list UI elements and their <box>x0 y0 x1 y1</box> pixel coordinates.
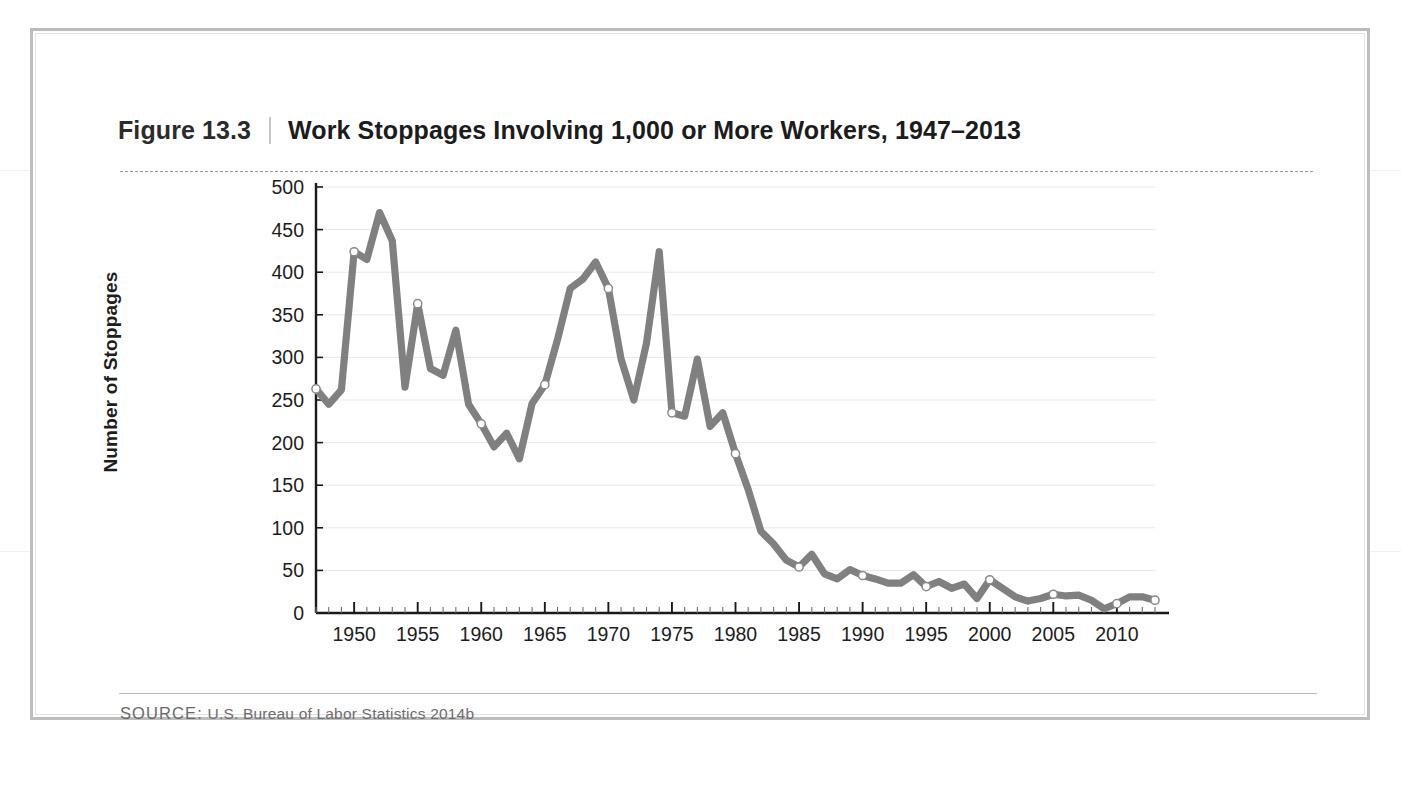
x-axis-tick-label: 1950 <box>332 623 376 645</box>
source-label: SOURCE: <box>120 704 203 722</box>
y-axis-tick-label: 450 <box>271 219 304 241</box>
source-text: U.S. Bureau of Labor Statistics 2014b <box>208 705 475 722</box>
y-axis-tick-label: 100 <box>271 517 304 539</box>
x-axis-tick-label: 1975 <box>650 623 694 645</box>
data-point-marker <box>668 409 676 417</box>
data-point-marker <box>477 420 485 428</box>
x-axis-tick-label: 1995 <box>904 623 948 645</box>
y-axis-tick-label: 200 <box>271 432 304 454</box>
y-axis-tick-label: 0 <box>293 602 304 624</box>
y-axis-tick-label: 150 <box>271 474 304 496</box>
data-point-marker <box>541 381 549 389</box>
data-point-marker <box>604 284 612 292</box>
data-point-marker <box>922 582 930 590</box>
x-axis-tick-label: 2005 <box>1032 623 1076 645</box>
source-line: SOURCE: U.S. Bureau of Labor Statistics … <box>120 704 474 723</box>
x-axis: 1950195519601965197019751980198519901995… <box>316 602 1169 645</box>
data-point-marker <box>731 450 739 458</box>
figure-frame: Figure 13.3 Work Stoppages Involving 1,0… <box>30 28 1370 720</box>
data-point-marker <box>1049 590 1057 598</box>
y-axis-tick-label: 350 <box>271 304 304 326</box>
y-axis-tick-label: 500 <box>271 176 304 198</box>
chart-area: Number of Stoppages 05010015020025030035… <box>33 31 1373 723</box>
x-axis-tick-label: 1965 <box>523 623 567 645</box>
y-axis-tick-label: 250 <box>271 389 304 411</box>
y-axis-tick-label: 300 <box>271 346 304 368</box>
x-axis-tick-label: 1980 <box>714 623 758 645</box>
data-point-marker <box>1113 600 1121 608</box>
x-axis-tick-label: 2000 <box>968 623 1012 645</box>
gridlines <box>316 187 1155 570</box>
source-divider-rule <box>119 693 1317 694</box>
data-point-marker <box>312 385 320 393</box>
x-axis-tick-label: 1970 <box>587 623 631 645</box>
x-axis-tick-label: 1960 <box>460 623 504 645</box>
data-point-marker <box>1151 596 1159 604</box>
y-axis-tick-label: 50 <box>282 559 304 581</box>
x-axis-tick-label: 1955 <box>396 623 440 645</box>
data-point-marker <box>350 248 358 256</box>
x-axis-tick-label: 1985 <box>777 623 821 645</box>
data-point-marker <box>414 300 422 308</box>
data-markers <box>312 248 1159 608</box>
line-chart: 0501001502002503003504004505001950195519… <box>33 31 1373 723</box>
y-axis: 050100150200250300350400450500 <box>271 176 323 624</box>
x-axis-tick-label: 2010 <box>1095 623 1139 645</box>
y-axis-tick-label: 400 <box>271 261 304 283</box>
data-point-marker <box>986 576 994 584</box>
data-point-marker <box>859 571 867 579</box>
data-point-marker <box>795 563 803 571</box>
x-axis-tick-label: 1990 <box>841 623 885 645</box>
